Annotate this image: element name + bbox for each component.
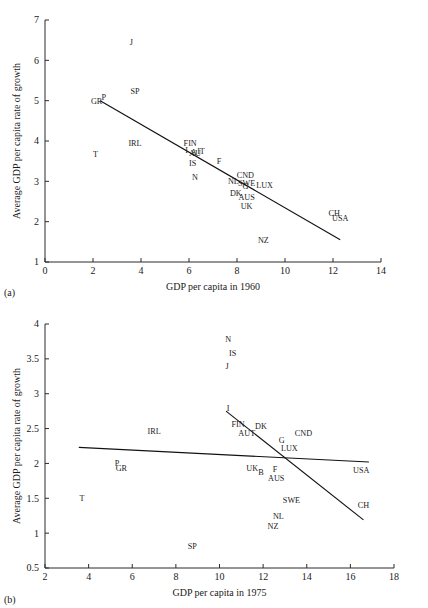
y-tick-label: 2 (34, 458, 39, 469)
data-point-label: DK (255, 422, 267, 431)
y-tick-label: 2 (34, 216, 39, 227)
data-point-label: NZ (267, 522, 278, 531)
data-point-label: CND (295, 429, 312, 438)
data-point-label: UK (246, 464, 258, 473)
y-tick-label: 2.5 (27, 423, 40, 434)
y-tick-label: 3 (34, 176, 39, 187)
regression-line-regression (100, 101, 340, 240)
data-point-label: J (226, 362, 230, 371)
data-point-label: IS (229, 349, 237, 358)
y-axis-title: Average GDP per capita rate of growth (11, 63, 22, 219)
x-tick-label: 14 (302, 571, 312, 582)
panel-tag: (a) (4, 287, 15, 299)
x-tick-label: 14 (376, 265, 386, 276)
data-point-label: SP (130, 87, 140, 96)
y-tick-label: 1 (34, 528, 39, 539)
data-point-label: GR (91, 97, 103, 106)
scatter-plot-1960: 123456702468101214JSPPGRIRLTFINIAAUITISF… (0, 0, 428, 300)
x-tick-label: 8 (173, 571, 178, 582)
y-tick-label: 7 (34, 14, 39, 25)
x-tick-label: 6 (130, 571, 135, 582)
data-point-label: SWE (283, 496, 300, 505)
data-point-label: IRL (147, 427, 160, 436)
x-tick-label: 6 (187, 265, 192, 276)
regression-line-flat-regression (79, 447, 369, 462)
data-point-label: N (225, 335, 231, 344)
data-point-label: GR (116, 464, 128, 473)
x-axis-title: GDP per capita in 1975 (172, 587, 266, 598)
data-point-label: USA (332, 214, 348, 223)
y-tick-label: 1 (34, 256, 39, 267)
data-point-label: LUX (256, 181, 273, 190)
data-point-label: B (258, 468, 264, 477)
data-point-label: F (273, 465, 278, 474)
y-tick-label: 3 (34, 388, 39, 399)
data-point-label: CH (358, 501, 369, 510)
x-tick-label: 8 (235, 265, 240, 276)
data-point-label: G (242, 182, 248, 191)
data-point-label: T (93, 150, 98, 159)
scatter-plot-1975: 0.511.522.533.5424681012141618NISJIFINDK… (0, 300, 428, 608)
y-tick-label: 4 (34, 135, 39, 146)
plot-axes (45, 324, 394, 568)
x-tick-label: 10 (280, 265, 290, 276)
data-point-label: NL (273, 512, 284, 521)
y-tick-label: 3.5 (27, 353, 40, 364)
data-point-label: F (217, 157, 222, 166)
data-point-label: IS (189, 159, 197, 168)
panel-a-figure: 123456702468101214JSPPGRIRLTFINIAAUITISF… (0, 0, 428, 300)
data-point-label: UK (241, 202, 253, 211)
y-axis-title: Average GDP per capita rate of growth (11, 368, 22, 524)
x-tick-label: 12 (258, 571, 268, 582)
data-point-label: FIN (231, 420, 244, 429)
panel-tag: (b) (4, 594, 16, 606)
x-tick-label: 4 (139, 265, 144, 276)
y-tick-label: 5 (34, 95, 39, 106)
data-point-label: SP (188, 542, 198, 551)
x-tick-label: 10 (215, 571, 225, 582)
x-tick-label: 4 (86, 571, 91, 582)
data-point-label: AUS (238, 193, 255, 202)
data-point-label: IRL (128, 139, 141, 148)
y-tick-label: 0.5 (27, 562, 40, 573)
panel-b-figure: 0.511.522.533.5424681012141618NISJIFINDK… (0, 300, 428, 608)
data-point-label: AUS (268, 474, 285, 483)
data-point-label: T (80, 494, 85, 503)
plot-axes (45, 20, 381, 262)
x-tick-label: 16 (345, 571, 355, 582)
data-point-label: AUT (238, 429, 255, 438)
x-tick-label: 12 (328, 265, 338, 276)
y-tick-label: 4 (34, 318, 39, 329)
x-tick-label: 2 (91, 265, 96, 276)
x-tick-label: 18 (389, 571, 399, 582)
data-point-label: I (185, 146, 188, 155)
y-tick-label: 6 (34, 55, 39, 66)
x-tick-label: 2 (43, 571, 48, 582)
data-point-label: N (192, 173, 198, 182)
data-point-label: I (227, 404, 230, 413)
data-point-label: IT (197, 147, 205, 156)
data-point-label: J (130, 38, 134, 47)
x-tick-label: 0 (43, 265, 48, 276)
y-tick-label: 1.5 (27, 493, 40, 504)
x-axis-title: GDP per capita in 1960 (166, 281, 260, 292)
data-point-label: USA (353, 466, 369, 475)
data-point-label: NZ (258, 236, 269, 245)
data-point-label: LUX (281, 444, 298, 453)
